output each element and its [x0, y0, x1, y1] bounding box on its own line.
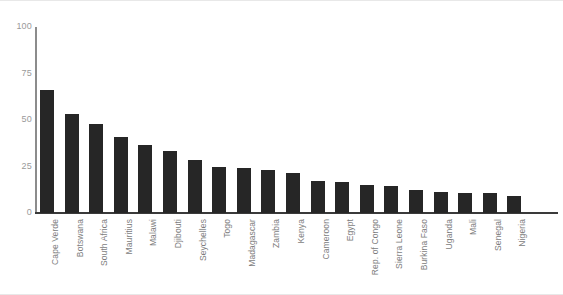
category-label: Madagascar: [247, 219, 257, 267]
category-label-holder: South Africa: [89, 1, 103, 295]
category-label: Burkina Faso: [419, 219, 429, 270]
category-label: Mauritius: [124, 219, 134, 254]
category-label-holder: Seychelles: [188, 1, 202, 295]
category-label: Uganda: [444, 219, 454, 249]
category-label-holder: Mali: [458, 1, 472, 295]
category-label: Togo: [222, 219, 232, 238]
category-label: Cape Verde: [50, 219, 60, 265]
category-label: Senegal: [493, 219, 503, 251]
category-label: Cameroon: [321, 219, 331, 260]
category-label: Botswana: [75, 219, 85, 257]
category-label-holder: Sierra Leone: [384, 1, 398, 295]
category-label: Djibouti: [173, 219, 183, 248]
x-axis-category-labels: Cape VerdeBotswanaSouth AfricaMauritiusM…: [0, 1, 563, 295]
category-label: Kenya: [296, 219, 306, 244]
category-label-holder: Togo: [212, 1, 226, 295]
category-label: Malawi: [148, 219, 158, 246]
category-label-holder: Malawi: [138, 1, 152, 295]
category-label: Nigeria: [517, 219, 527, 247]
category-label: Seychelles: [198, 219, 208, 261]
category-label: Zambia: [271, 219, 281, 248]
category-label-holder: Egypt: [335, 1, 349, 295]
category-label-holder: Rep. of Congo: [360, 1, 374, 295]
bar-chart: 0255075100 Cape VerdeBotswanaSouth Afric…: [0, 0, 563, 295]
category-label-holder: Nigeria: [507, 1, 521, 295]
category-label-holder: Djibouti: [163, 1, 177, 295]
category-label-holder: Uganda: [434, 1, 448, 295]
category-label-holder: Cameroon: [311, 1, 325, 295]
category-label: South Africa: [99, 219, 109, 266]
category-label-holder: Kenya: [286, 1, 300, 295]
category-label: Mali: [468, 219, 478, 235]
category-label-holder: Botswana: [65, 1, 79, 295]
category-label-holder: Mauritius: [114, 1, 128, 295]
category-label-holder: Burkina Faso: [409, 1, 423, 295]
category-label-holder: Senegal: [483, 1, 497, 295]
category-label-holder: Madagascar: [237, 1, 251, 295]
category-label-holder: Cape Verde: [40, 1, 54, 295]
category-label: Egypt: [345, 219, 355, 241]
category-label: Sierra Leone: [394, 219, 404, 269]
category-label: Rep. of Congo: [370, 219, 380, 275]
category-label-holder: Zambia: [261, 1, 275, 295]
